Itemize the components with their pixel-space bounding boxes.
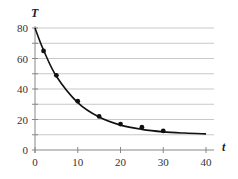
x-tick-label: 30 (158, 156, 170, 168)
x-tick-label: 40 (201, 156, 213, 168)
data-point (75, 99, 80, 104)
y-axis-label: T (31, 6, 39, 20)
x-tick-label: 0 (32, 156, 38, 168)
data-point (97, 114, 102, 119)
x-tick-label: 20 (115, 156, 127, 168)
data-point (139, 125, 144, 130)
x-tick-label: 10 (72, 156, 84, 168)
data-point-markers (41, 48, 166, 133)
y-tick-label: 40 (17, 83, 29, 95)
y-tick-label: 20 (17, 114, 29, 126)
y-tick-label: 0 (23, 144, 29, 156)
y-tick-label: 60 (17, 53, 29, 65)
data-point (118, 122, 123, 127)
data-point (54, 73, 59, 78)
data-point (161, 129, 166, 134)
y-axis-tick-labels: 020406080 (17, 22, 29, 156)
y-tick-label: 80 (17, 22, 29, 34)
cooling-curve-chart: 020406080 010203040 T t (0, 0, 238, 179)
x-axis-label: t (222, 140, 226, 154)
data-curve (35, 28, 206, 134)
data-point (41, 48, 46, 53)
